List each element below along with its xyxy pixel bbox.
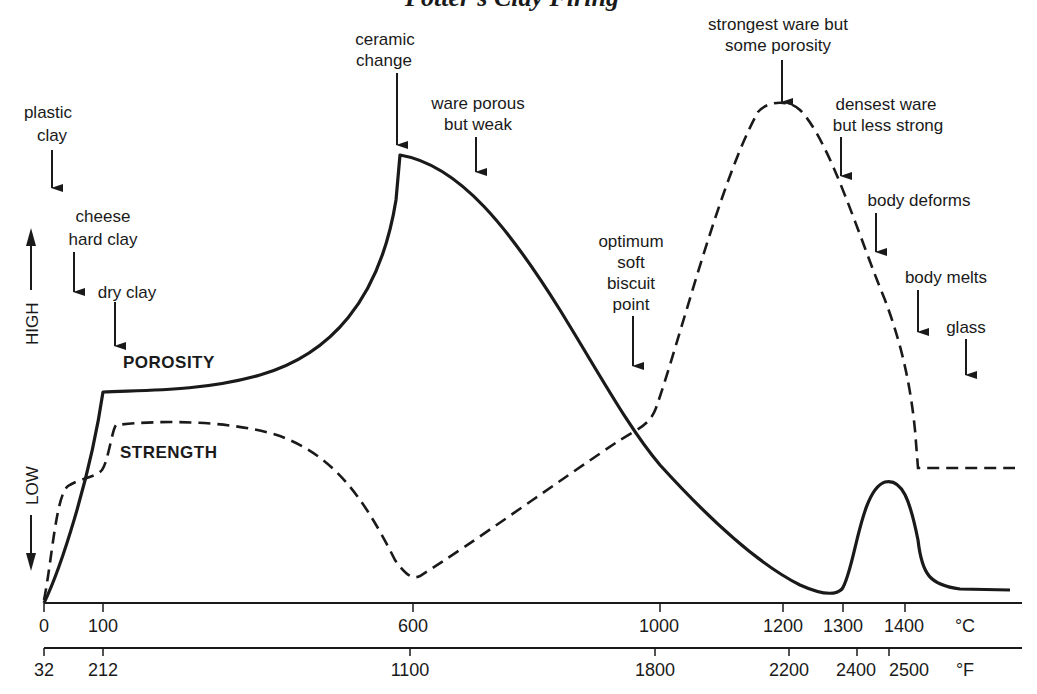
annotation-strongest-ware: strongest ware but some porosity [708, 15, 848, 102]
svg-text:some porosity: some porosity [725, 36, 831, 55]
svg-text:but less strong: but less strong [833, 116, 944, 135]
arrow-down-icon [26, 553, 36, 571]
svg-text:soft: soft [617, 253, 645, 272]
firing-chart: Potter's Clay Firing HIGH LOW 0 100 600 … [0, 0, 1037, 694]
svg-text:body deforms: body deforms [868, 191, 971, 210]
annotation-cheese-hard-clay: cheese hard clay [69, 207, 138, 292]
tick-f-2200: 2200 [769, 660, 809, 680]
series-label-strength: STRENGTH [120, 443, 218, 462]
tick-c-0: 0 [39, 616, 49, 636]
annotation-ware-porous: ware porous but weak [430, 94, 525, 172]
tick-f-1100: 1100 [391, 660, 430, 680]
svg-text:hard clay: hard clay [69, 230, 138, 249]
tick-f-212: 212 [88, 660, 118, 680]
svg-text:ware porous: ware porous [430, 94, 525, 113]
svg-text:change: change [356, 51, 412, 70]
chart-title: Potter's Clay Firing [404, 0, 619, 12]
annotation-plastic-clay: plastic clay [24, 103, 73, 188]
tick-f-1800: 1800 [635, 660, 675, 680]
annotation-densest-ware: densest ware but less strong [833, 95, 944, 176]
series-label-porosity: POROSITY [123, 353, 215, 372]
tick-c-1300: 1300 [823, 616, 863, 636]
svg-text:biscuit: biscuit [607, 274, 655, 293]
svg-text:body melts: body melts [905, 268, 987, 287]
y-axis-indicator: HIGH LOW [23, 228, 42, 571]
tick-c-1200: 1200 [763, 616, 803, 636]
y-label-low: LOW [23, 466, 42, 505]
svg-text:strongest ware but: strongest ware but [708, 15, 848, 34]
strength-curve [44, 103, 1015, 600]
svg-text:dry clay: dry clay [98, 283, 157, 302]
svg-text:plastic: plastic [24, 103, 73, 122]
x-axis-fahrenheit: 32 212 1100 1800 2200 2400 2500 °F [34, 648, 1022, 680]
arrow-up-icon [26, 228, 36, 246]
svg-text:ceramic: ceramic [355, 30, 415, 49]
svg-text:clay: clay [37, 126, 68, 145]
svg-text:but weak: but weak [444, 115, 513, 134]
annotation-ceramic-change: ceramic change [355, 30, 415, 145]
svg-text:densest ware: densest ware [835, 95, 936, 114]
annotation-optimum-soft-biscuit-point: optimum soft biscuit point [598, 232, 663, 366]
x-axis-celsius: 0 100 600 1000 1200 1300 1400 °C [39, 603, 1022, 636]
svg-text:cheese: cheese [76, 207, 131, 226]
annotation-glass: glass [946, 318, 986, 375]
tick-c-100: 100 [88, 616, 118, 636]
tick-f-32: 32 [34, 660, 54, 680]
tick-f-2500: 2500 [889, 660, 929, 680]
svg-text:point: point [613, 295, 650, 314]
y-label-high: HIGH [23, 303, 42, 346]
unit-fahrenheit: °F [956, 660, 974, 680]
annotation-dry-clay: dry clay [98, 283, 157, 346]
tick-c-600: 600 [398, 616, 428, 636]
tick-f-2400: 2400 [836, 660, 876, 680]
porosity-curve [44, 155, 1010, 603]
tick-c-1400: 1400 [884, 616, 924, 636]
annotation-body-deforms: body deforms [868, 191, 971, 252]
tick-c-1000: 1000 [639, 616, 679, 636]
svg-text:optimum: optimum [598, 232, 663, 251]
unit-celsius: °C [955, 616, 975, 636]
svg-text:glass: glass [946, 318, 986, 337]
